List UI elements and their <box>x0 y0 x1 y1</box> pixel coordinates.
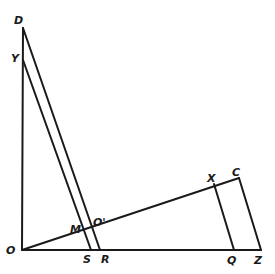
line-CZ <box>239 178 261 250</box>
line-YS <box>23 60 91 250</box>
line-OC <box>22 178 239 250</box>
label-Y: Y <box>11 52 20 65</box>
label-R: R <box>101 253 109 266</box>
line-DR <box>23 28 100 250</box>
geometry-diagram: D Y O M O' S R X C Q Z <box>0 0 275 274</box>
label-Z: Z <box>253 254 263 267</box>
label-X: X <box>206 172 216 185</box>
label-O-prime: O' <box>93 216 106 229</box>
label-O: O <box>6 244 15 257</box>
label-D: D <box>14 14 23 27</box>
label-M: M <box>70 223 81 236</box>
label-S: S <box>83 253 91 266</box>
label-Q: Q <box>227 254 236 267</box>
line-XQ <box>214 184 234 250</box>
label-C: C <box>232 166 240 179</box>
